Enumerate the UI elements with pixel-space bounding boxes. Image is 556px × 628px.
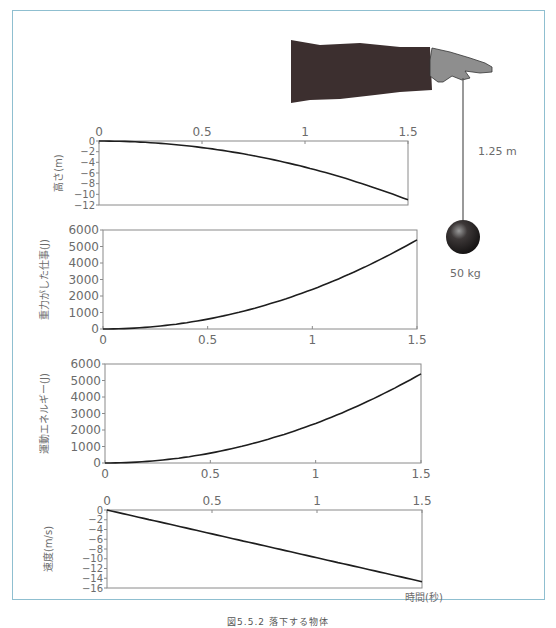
x-tick-label: 1 [309,333,317,347]
y-tick-label: 5000 [70,374,101,388]
mass-label: 50 kg [450,267,481,280]
plot-frame [103,230,417,329]
y-tick-label: −2 [80,146,95,157]
y-tick-label: 6000 [70,357,101,371]
y-tick-label: 5000 [68,240,99,254]
plot-frame [105,364,421,463]
velocity-plot: 0−2−4−6−8−10−12−14−1600.511.5速度(m/s) [42,494,432,594]
y-tick-label: −12 [74,200,95,211]
y-axis-label: 運動エネルギー(J) [38,373,50,454]
x-tick-label: 1.5 [411,467,430,481]
x-tick-label: 1 [312,467,320,481]
data-curve [107,510,422,582]
figure-caption: 図5.5.2 落下する物体 [0,615,556,628]
y-tick-label: 0 [93,456,101,470]
sleeve-icon [291,40,432,103]
y-axis-label: 速度(m/s) [42,526,54,572]
y-tick-label: −4 [80,157,95,168]
x-tick-label: 0 [103,494,111,508]
y-tick-label: 0 [91,322,99,336]
hand-icon [430,48,492,82]
iron-ball-icon [446,220,480,254]
y-tick-label: 4000 [70,390,101,404]
x-tick-label: 1.5 [398,125,417,139]
x-tick-label: 0.5 [201,467,220,481]
x-tick-label: 0 [101,467,109,481]
plot-frame [107,510,422,588]
data-curve [105,374,421,463]
data-curve [103,240,417,329]
y-tick-label: 1000 [70,440,101,454]
rope-length-label: 1.25 m [478,145,517,158]
x-tick-label: 1.5 [407,333,426,347]
y-tick-label: 6000 [68,223,99,237]
y-tick-label: 2000 [70,423,101,437]
y-tick-label: 3000 [68,273,99,287]
arm-illustration [291,40,492,103]
y-tick-label: −8 [80,178,95,189]
x-tick-label: 0.5 [192,125,211,139]
y-tick-label: −10 [74,189,95,200]
y-tick-label: −6 [80,168,95,179]
y-axis-label: 高さ(m) [52,154,64,192]
data-curve [99,141,408,200]
y-tick-label: 4000 [68,256,99,270]
height-plot: 0−2−4−6−8−10−1200.511.5高さ(m) [52,125,418,211]
x-tick-label: 0 [99,333,107,347]
x-tick-label: 0.5 [202,494,221,508]
x-axis-title: 時間(秒) [405,591,443,603]
gravity-work-plot: 600050004000300020001000000.511.5重力がした仕事… [38,223,427,347]
y-tick-label: 2000 [68,289,99,303]
x-tick-label: 0 [95,125,103,139]
y-axis-label: 重力がした仕事(J) [38,239,50,320]
y-tick-label: 3000 [70,407,101,421]
x-tick-label: 1 [313,494,321,508]
x-tick-label: 0.5 [198,333,217,347]
kinetic-energy-plot: 600050004000300020001000000.511.5運動エネルギー… [38,357,431,481]
y-tick-label: 0 [89,136,95,147]
x-tick-label: 1.5 [412,494,431,508]
plot-frame [99,141,408,205]
x-tick-label: 1 [301,125,309,139]
y-tick-label: −16 [82,583,103,594]
y-tick-label: 1000 [68,306,99,320]
